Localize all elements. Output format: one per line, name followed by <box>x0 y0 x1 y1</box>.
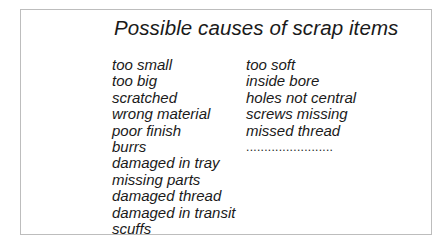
list-item: damaged thread <box>112 188 235 204</box>
page-title: Possible causes of scrap items <box>114 16 398 40</box>
list-item: holes not central <box>246 90 356 106</box>
list-item: screws missing <box>246 106 356 122</box>
list-item: wrong material <box>112 106 235 122</box>
causes-list-right: too soft inside bore holes not central s… <box>246 57 356 155</box>
list-item: missing parts <box>112 172 235 188</box>
list-item: damaged in tray <box>112 155 235 171</box>
list-item: inside bore <box>246 73 356 89</box>
list-item: scratched <box>112 90 235 106</box>
list-item: too soft <box>246 57 356 73</box>
list-item: too small <box>112 57 235 73</box>
list-item: poor finish <box>112 123 235 139</box>
list-item: too big <box>112 73 235 89</box>
causes-list-left: too small too big scratched wrong materi… <box>112 57 235 237</box>
blank-fill-line: ........................ <box>246 139 356 155</box>
list-item: burrs <box>112 139 235 155</box>
list-item: damaged in transit <box>112 205 235 221</box>
list-item: missed thread <box>246 123 356 139</box>
list-item: scuffs <box>112 221 235 237</box>
